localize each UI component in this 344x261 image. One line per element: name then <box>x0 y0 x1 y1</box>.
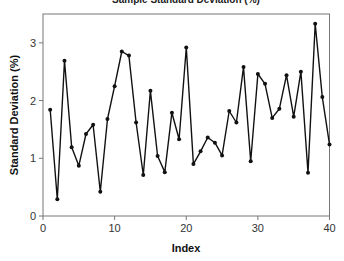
x-tick-label: 10 <box>109 222 121 234</box>
x-tick-label: 30 <box>252 222 264 234</box>
data-point <box>285 73 289 77</box>
plot-frame <box>43 14 330 216</box>
data-point <box>62 59 66 63</box>
data-point <box>249 159 253 163</box>
data-point <box>127 54 131 58</box>
data-point <box>234 121 238 125</box>
data-point <box>256 72 260 76</box>
plot-area <box>43 14 330 216</box>
data-point <box>299 70 303 74</box>
data-point <box>220 153 224 157</box>
data-point <box>328 142 332 146</box>
data-point <box>320 95 324 99</box>
y-tick-label: 1 <box>30 152 36 164</box>
data-point <box>313 22 317 26</box>
data-point <box>48 108 52 112</box>
data-point <box>84 132 88 136</box>
data-point <box>105 117 109 121</box>
x-tick-label: 20 <box>180 222 192 234</box>
y-tick-label: 3 <box>30 37 36 49</box>
y-axis-label: Standard Deviation (%) <box>8 54 20 175</box>
data-point <box>263 82 267 86</box>
data-point <box>156 154 160 158</box>
data-point <box>213 141 217 145</box>
data-point <box>277 107 281 111</box>
data-point <box>306 171 310 175</box>
data-point <box>70 145 74 149</box>
data-point <box>199 149 203 153</box>
data-point <box>184 45 188 49</box>
data-point <box>206 136 210 140</box>
data-point <box>170 111 174 115</box>
chart-title: Sample Standard Deviation (%) <box>112 0 260 5</box>
data-point <box>191 162 195 166</box>
data-point <box>91 123 95 127</box>
data-point <box>77 164 81 168</box>
x-tick-label: 0 <box>40 222 46 234</box>
data-point <box>242 65 246 69</box>
data-point <box>148 89 152 93</box>
y-axis: 0123 <box>30 37 43 222</box>
data-point <box>141 173 145 177</box>
data-point <box>55 197 59 201</box>
line-chart: Sample Standard Deviation (%) 0123 01020… <box>0 0 344 261</box>
y-tick-label: 0 <box>30 210 36 222</box>
data-series <box>48 22 331 201</box>
data-point <box>177 137 181 141</box>
x-axis: 010203040 <box>40 216 336 234</box>
data-point <box>98 190 102 194</box>
data-point <box>113 84 117 88</box>
x-tick-label: 40 <box>323 222 335 234</box>
series-line <box>50 24 329 200</box>
data-point <box>134 121 138 125</box>
data-point <box>163 170 167 174</box>
data-point <box>292 115 296 119</box>
x-axis-label: Index <box>172 242 202 254</box>
data-point <box>227 109 231 113</box>
y-tick-label: 2 <box>30 95 36 107</box>
data-point <box>270 116 274 120</box>
data-point <box>120 50 124 54</box>
